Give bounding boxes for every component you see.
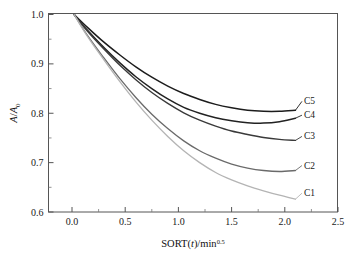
curve-label-leader-c2 [295, 166, 302, 171]
y-tick-label: 0.6 [31, 207, 44, 218]
x-axis-title: SORT(t)/min0.5 [161, 238, 225, 251]
x-axis-title-main: SORT( [161, 238, 191, 250]
y-axis-title: A/A0 [8, 103, 22, 124]
y-axis-title-sub: 0 [14, 103, 22, 107]
y-tick-label: 0.8 [31, 108, 44, 119]
y-axis-ticks: 0.60.70.80.91.0 [31, 9, 54, 218]
curve-labels: C5C4C3C2C1 [295, 96, 315, 199]
curve-c2 [74, 15, 295, 172]
curve-label-c5: C5 [304, 96, 315, 106]
curve-c3 [74, 15, 295, 141]
y-tick-label: 0.9 [31, 58, 44, 69]
x-axis-title-exponent: 0.5 [217, 238, 225, 245]
y-tick-label: 1.0 [31, 9, 44, 20]
x-tick-label: 1.0 [172, 216, 185, 227]
curve-label-c4: C4 [304, 110, 315, 120]
x-tick-label: 2.0 [279, 216, 292, 227]
curve-c4 [74, 15, 295, 124]
x-tick-label: 2.5 [332, 216, 345, 227]
x-axis-title-unit: )/min [194, 238, 217, 250]
x-tick-label: 0.0 [66, 216, 79, 227]
x-tick-label: 1.5 [225, 216, 238, 227]
y-tick-label: 0.7 [31, 157, 44, 168]
curve-label-leader-c1 [295, 193, 302, 199]
curve-label-leader-c3 [295, 136, 302, 140]
curve-label-leader-c5 [295, 101, 302, 110]
x-axis-ticks: 0.00.51.01.52.02.5 [66, 207, 345, 227]
curve-label-c1: C1 [304, 188, 315, 198]
curve-label-c3: C3 [304, 131, 315, 141]
curve-c1 [74, 15, 295, 200]
curve-label-leader-c4 [295, 115, 302, 118]
data-curves [74, 15, 295, 200]
chart-figure: 0.00.51.01.52.02.5 0.60.70.80.91.0 C5C4C… [0, 0, 351, 254]
chart-svg: 0.00.51.01.52.02.5 0.60.70.80.91.0 C5C4C… [0, 0, 351, 254]
x-tick-label: 0.5 [119, 216, 132, 227]
curve-label-c2: C2 [304, 161, 315, 171]
